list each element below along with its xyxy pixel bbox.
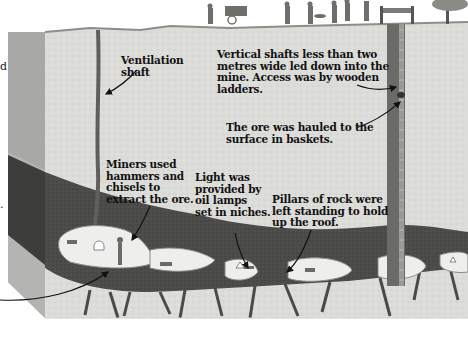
windlass-icon (380, 6, 414, 24)
label-ventilation-shaft: Ventilation shaft (121, 55, 183, 78)
ore-basket-icon (397, 92, 405, 98)
label-rock-pillars: Pillars of rock were left standing to ho… (272, 194, 388, 229)
tree-icon (432, 0, 468, 24)
cropped-text-fragment: . (0, 198, 4, 211)
label-ore-hauled: The ore was hauled to the surface in bas… (226, 122, 373, 145)
access-shaft (387, 24, 405, 286)
label-oil-lamps: Light was provided by oil lamps set in n… (195, 172, 270, 218)
label-miners-tools: Miners used hammers and chisels to extra… (106, 159, 194, 205)
cropped-text-fragment: d (0, 60, 7, 73)
label-vertical-shafts: Vertical shafts less than two metres wid… (217, 49, 389, 95)
mine-cross-section-diagram: d . Ventilation shaft Vertical shafts le… (0, 0, 468, 338)
surface-figures (208, 0, 370, 24)
